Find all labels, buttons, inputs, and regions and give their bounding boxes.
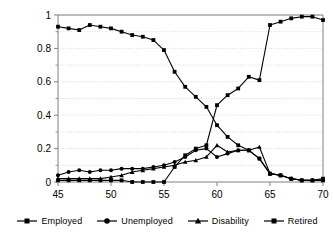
svg-text:0.6: 0.6: [37, 76, 51, 87]
svg-text:0.8: 0.8: [37, 43, 51, 54]
legend-marker-square-icon: [16, 216, 38, 226]
chart-container: 00.20.40.60.81455055606570 Employed Unem…: [0, 0, 334, 235]
svg-text:65: 65: [264, 189, 276, 200]
svg-text:0.4: 0.4: [37, 110, 51, 121]
svg-text:50: 50: [105, 189, 117, 200]
legend-marker-triangle-icon: [187, 216, 209, 226]
legend-item-retired: Retired: [263, 216, 318, 226]
legend-item-employed: Employed: [16, 216, 82, 226]
legend-marker-square-icon: [263, 216, 285, 226]
svg-text:45: 45: [52, 189, 64, 200]
svg-text:0: 0: [45, 177, 51, 188]
legend-label-employed: Employed: [41, 216, 82, 226]
svg-text:60: 60: [211, 189, 223, 200]
svg-text:1: 1: [45, 10, 51, 21]
svg-text:0.2: 0.2: [37, 143, 51, 154]
legend-item-unemployed: Unemployed: [96, 216, 173, 226]
line-chart: 00.20.40.60.81455055606570: [0, 0, 334, 235]
legend-label-retired: Retired: [288, 216, 318, 226]
legend-marker-circle-icon: [96, 216, 118, 226]
legend-label-unemployed: Unemployed: [121, 216, 173, 226]
legend-item-disability: Disability: [187, 216, 249, 226]
legend-label-disability: Disability: [212, 216, 249, 226]
chart-legend: Employed Unemployed Disability Retired: [0, 211, 334, 231]
svg-text:55: 55: [158, 189, 170, 200]
svg-text:70: 70: [317, 189, 329, 200]
